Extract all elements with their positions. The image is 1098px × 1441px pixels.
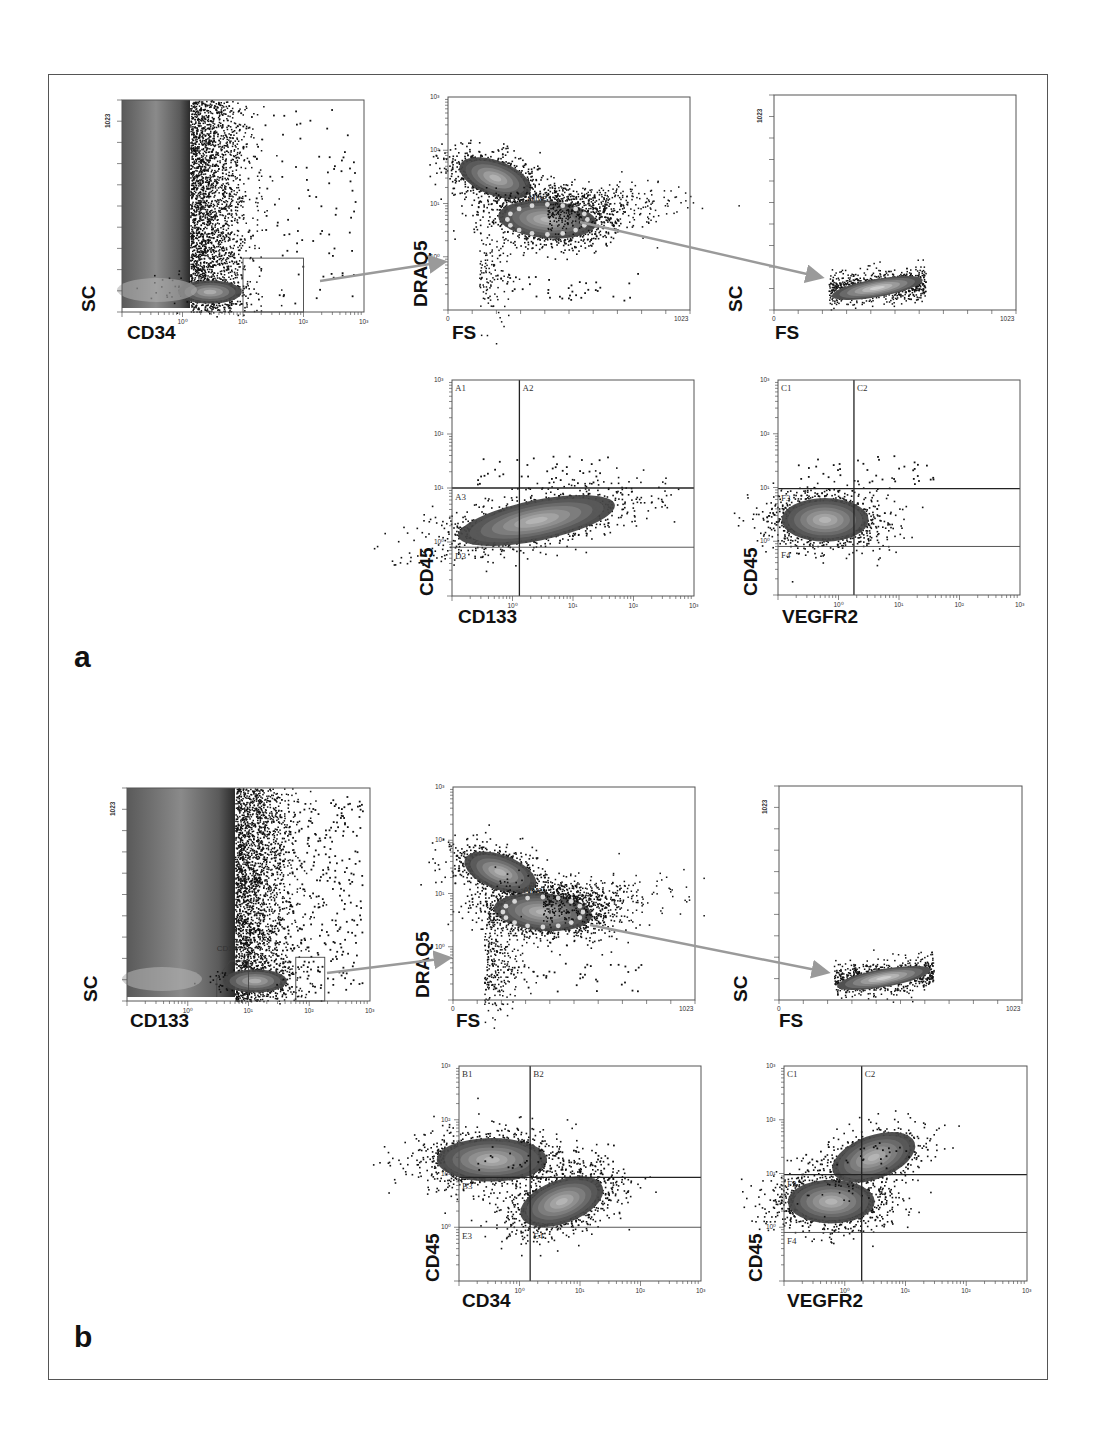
scatter-plot-vegfr2-vs-cd45: C1C2F3F410⁰10¹10²10³10⁰10¹10²10³ [778,380,1020,595]
svg-text:10³: 10³ [766,1062,776,1069]
svg-text:CD1: CD1 [217,944,234,953]
x-axis-label: CD133 [130,1010,189,1032]
svg-text:10³: 10³ [365,1007,375,1014]
svg-text:Alive: Alive [523,885,543,895]
svg-text:B2: B2 [533,1069,544,1079]
svg-text:10¹: 10¹ [244,1007,254,1014]
svg-text:10²: 10² [766,1116,776,1123]
svg-text:10³: 10³ [689,602,699,609]
y-axis-label: SC [80,976,102,1002]
svg-text:10¹: 10¹ [430,200,440,207]
svg-text:10¹: 10¹ [435,890,445,897]
svg-text:10¹: 10¹ [901,1287,911,1294]
scatter-plot-fs-vs-draq5: Alive0102310⁰10¹10²10³ [453,787,695,1000]
svg-text:10²: 10² [441,1116,451,1123]
svg-text:10²: 10² [961,1287,971,1294]
svg-text:B1: B1 [462,1069,473,1079]
y-axis-label: DRAQ5 [412,931,434,998]
svg-text:B3: B3 [462,1181,473,1191]
y-axis-label: DRAQ5 [410,240,432,307]
svg-text:10²: 10² [430,146,440,153]
y-axis-label: SC [730,976,752,1002]
scatter-plot-cd133-vs-cd45: A1A2A3D310⁰10¹10²10³10⁰10¹10²10³ [452,380,694,596]
y-axis-label: SC [78,286,100,312]
svg-text:1023: 1023 [679,1005,694,1012]
scatter-plot-fs-vs-draq5: Alive0102310⁰10¹10²10³ [448,97,690,310]
x-axis-label: FS [775,322,799,344]
x-axis-label: CD34 [462,1290,511,1312]
svg-text:10¹: 10¹ [894,601,904,608]
panel-label-b: b [74,1320,92,1354]
svg-text:10²: 10² [435,836,445,843]
svg-text:10³: 10³ [1015,601,1025,608]
svg-text:10⁰: 10⁰ [515,1287,525,1294]
x-axis-label: VEGFR2 [782,606,858,628]
y-axis-label: CD45 [422,1233,444,1282]
svg-text:10¹: 10¹ [238,318,248,325]
y-axis-label: CD45 [740,547,762,596]
svg-text:1023: 1023 [109,801,116,816]
svg-text:D3: D3 [455,551,466,561]
svg-text:F3: F3 [781,493,791,503]
x-axis-label: CD133 [458,606,517,628]
svg-text:C1: C1 [787,1069,798,1079]
x-axis-label: CD34 [127,322,176,344]
svg-text:10²: 10² [760,430,770,437]
svg-text:E4: E4 [533,1231,543,1241]
x-axis-label: VEGFR2 [787,1290,863,1312]
x-axis-label: FS [452,322,476,344]
svg-text:A2: A2 [522,383,533,393]
svg-text:10¹: 10¹ [568,602,578,609]
svg-text:10³: 10³ [430,93,440,100]
y-axis-label: CD45 [745,1233,767,1282]
x-axis-label: FS [456,1010,480,1032]
svg-text:C1: C1 [781,383,792,393]
svg-text:1023: 1023 [1006,1005,1021,1012]
svg-text:10²: 10² [629,602,639,609]
svg-text:1023: 1023 [674,315,689,322]
svg-text:10¹: 10¹ [434,484,444,491]
scatter-plot-vegfr2-vs-cd45: C1C2F3F410⁰10¹10²10³10⁰10¹10²10³ [784,1066,1027,1281]
svg-text:10³: 10³ [435,783,445,790]
svg-text:10³: 10³ [696,1287,706,1294]
svg-text:10²: 10² [636,1287,646,1294]
svg-text:10⁰: 10⁰ [441,1223,451,1230]
svg-text:1023: 1023 [1000,315,1015,322]
svg-text:F4: F4 [781,550,791,560]
scatter-plot-fs-vs-sc: 010231023 [779,786,1022,1000]
svg-text:10²: 10² [304,1007,314,1014]
svg-text:10²: 10² [955,601,965,608]
y-axis-label: CD45 [416,547,438,596]
svg-text:0: 0 [451,1005,455,1012]
svg-text:10¹: 10¹ [766,1170,776,1177]
svg-text:10¹: 10¹ [760,484,770,491]
svg-text:F4: F4 [787,1236,797,1246]
x-axis-label: FS [779,1010,803,1032]
svg-text:10²: 10² [434,430,444,437]
svg-text:E3: E3 [462,1231,472,1241]
svg-text:10⁰: 10⁰ [434,538,444,545]
scatter-plot-cd34-vs-cd45: B1B2B3E3E410⁰10¹10²10³10⁰10¹10²10³ [459,1066,701,1281]
svg-text:10²: 10² [299,318,309,325]
svg-text:10⁰: 10⁰ [435,943,445,950]
scatter-plot-cd133-vs-sc: CD110⁰10¹10²10³1023 [127,788,370,1001]
svg-text:0: 0 [446,315,450,322]
svg-text:C2: C2 [865,1069,876,1079]
svg-text:10¹: 10¹ [441,1170,451,1177]
svg-text:F3: F3 [787,1179,797,1189]
svg-text:10⁰: 10⁰ [766,1223,776,1230]
svg-text:1023: 1023 [761,799,768,814]
svg-text:1023: 1023 [104,113,111,128]
panel-label-a: a [74,640,91,674]
svg-text:10³: 10³ [359,318,369,325]
svg-text:A3: A3 [455,492,466,502]
svg-text:10⁰: 10⁰ [178,318,188,325]
svg-text:C2: C2 [857,383,868,393]
svg-text:10³: 10³ [441,1062,451,1069]
svg-text:1023: 1023 [756,108,763,123]
scatter-plot-fs-vs-sc: 010231023 [774,95,1016,310]
svg-text:10⁰: 10⁰ [760,537,770,544]
svg-text:10³: 10³ [1022,1287,1032,1294]
svg-text:A1: A1 [455,383,466,393]
svg-text:10³: 10³ [434,376,444,383]
